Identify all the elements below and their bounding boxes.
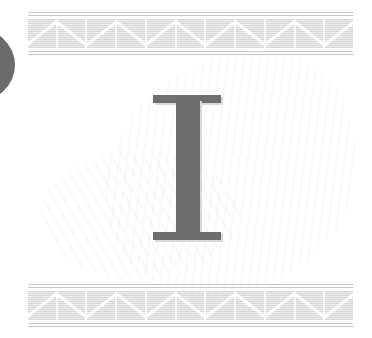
border-tile	[147, 19, 175, 48]
top-ornamental-border	[28, 12, 353, 55]
border-tile	[325, 291, 353, 320]
border-tile	[206, 19, 234, 48]
border-tile	[236, 291, 264, 320]
drop-cap-letter: I	[153, 95, 223, 241]
drop-cap-stem	[176, 101, 200, 235]
border-tile	[177, 291, 205, 320]
border-tile	[87, 19, 115, 48]
border-tile	[206, 291, 234, 320]
border-tile	[296, 291, 324, 320]
border-tile	[296, 19, 324, 48]
border-tile	[266, 291, 294, 320]
border-tile	[266, 19, 294, 48]
border-tile	[177, 19, 205, 48]
border-tile	[28, 291, 56, 320]
border-tile	[87, 291, 115, 320]
border-tile	[325, 19, 353, 48]
border-tile	[58, 19, 86, 48]
border-tile	[117, 19, 145, 48]
border-tile	[117, 291, 145, 320]
drop-cap-bottom-serif	[153, 232, 221, 240]
bottom-ornamental-border	[28, 284, 353, 327]
border-tile	[58, 291, 86, 320]
border-tile	[147, 291, 175, 320]
border-tile	[236, 19, 264, 48]
chapter-side-tab	[0, 28, 15, 102]
border-tile	[28, 19, 56, 48]
